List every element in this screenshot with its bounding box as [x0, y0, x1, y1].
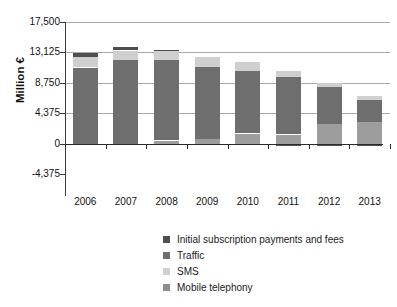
- bar-segment: [276, 71, 301, 77]
- y-tick-mark: [60, 174, 65, 175]
- legend-swatch-icon: [163, 252, 170, 259]
- x-tick-label: 2011: [268, 196, 308, 207]
- x-tick-label: 2009: [187, 196, 227, 207]
- x-tick-mark: [187, 144, 188, 149]
- bar: [73, 22, 98, 174]
- x-tick-mark: [309, 144, 310, 149]
- legend-item-label: SMS: [177, 266, 199, 277]
- bar-segment: [154, 51, 179, 60]
- bar-segment: [154, 50, 179, 51]
- bar-segment: [357, 96, 382, 100]
- chart-container: Million € -4,37504,3758,75013,12517,500 …: [0, 0, 397, 307]
- bar-segment: [195, 67, 220, 139]
- bar-segment: [73, 68, 98, 144]
- x-tick-mark: [228, 144, 229, 149]
- x-tick-label: 2007: [106, 196, 146, 207]
- bar-segment: [73, 53, 98, 56]
- y-tick-label: 13,125: [12, 47, 60, 57]
- gridline: [65, 174, 390, 175]
- x-tick-mark: [65, 144, 66, 149]
- x-tick-mark: [349, 144, 350, 149]
- legend-swatch-icon: [163, 284, 170, 291]
- legend-swatch-icon: [163, 236, 170, 243]
- bar-segment: [113, 51, 138, 60]
- legend-swatch-icon: [163, 268, 170, 275]
- bar-segment: [317, 123, 342, 143]
- y-tick-label: -4,375: [12, 169, 60, 179]
- bar-segment: [317, 87, 342, 124]
- x-tick-label: 2012: [309, 196, 349, 207]
- bar-group: [65, 22, 390, 174]
- bar-segment: [276, 135, 301, 144]
- legend-item-label: Traffic: [177, 250, 204, 261]
- x-tick-mark: [146, 144, 147, 149]
- legend-item-label: Mobile telephony: [177, 282, 253, 293]
- legend-item[interactable]: Mobile telephony: [163, 280, 388, 294]
- bar: [276, 22, 301, 174]
- bar: [113, 22, 138, 174]
- legend-item-label: Initial subscription payments and fees: [177, 234, 344, 245]
- x-tick-mark: [106, 144, 107, 149]
- bar-segment: [235, 62, 260, 70]
- bar-segment: [357, 100, 382, 122]
- plot-area: 20062007200820092010201120122013: [65, 22, 390, 174]
- bar: [154, 22, 179, 174]
- x-tick-mark: [268, 144, 269, 149]
- legend-item[interactable]: Traffic: [163, 248, 388, 262]
- bar-segment: [235, 71, 260, 134]
- x-tick-label: 2008: [147, 196, 187, 207]
- bar-segment: [113, 60, 138, 144]
- bar: [235, 22, 260, 174]
- bar-segment: [73, 57, 98, 68]
- x-tick-label: 2013: [350, 196, 390, 207]
- chart-legend: Initial subscription payments and feesTr…: [163, 232, 388, 296]
- y-tick-label: 8,750: [12, 78, 60, 88]
- x-tick-label: 2006: [65, 196, 105, 207]
- legend-item[interactable]: Initial subscription payments and fees: [163, 232, 388, 246]
- bar-segment: [357, 122, 382, 144]
- bar-segment: [154, 60, 179, 140]
- bar-segment: [235, 134, 260, 144]
- y-tick-label: 17,500: [12, 17, 60, 27]
- y-tick-label: 0: [12, 139, 60, 149]
- bar: [317, 22, 342, 174]
- bar: [195, 22, 220, 174]
- x-tick-mark: [390, 144, 391, 149]
- x-tick-label: 2010: [228, 196, 268, 207]
- y-axis-tick-labels: -4,37504,3758,75013,12517,500: [8, 0, 60, 200]
- bar-segment: [317, 83, 342, 87]
- bar: [357, 22, 382, 174]
- bar-segment: [195, 57, 220, 67]
- x-axis-line: [65, 144, 383, 146]
- bar-segment: [276, 77, 301, 134]
- y-tick-label: 4,375: [12, 108, 60, 118]
- legend-item[interactable]: SMS: [163, 264, 388, 278]
- bar-segment: [113, 47, 138, 50]
